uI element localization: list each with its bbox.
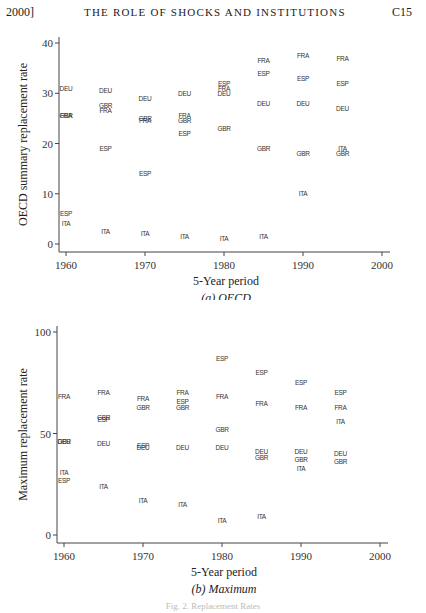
data-label-ita: ITA (139, 497, 149, 504)
data-label-fra: FRA (97, 389, 110, 396)
data-label-fra: FRA (295, 404, 308, 411)
data-label-deu: DEU (58, 438, 71, 445)
data-label-ita: ITA (297, 465, 307, 472)
data-label-deu: DEU (216, 444, 229, 451)
chart-maximum: 050100196019701980199020005-Year period(… (0, 0, 426, 613)
data-label-esp: ESP (216, 355, 228, 362)
x-tick-label: 1970 (132, 550, 155, 562)
data-label-ita: ITA (257, 513, 267, 520)
data-label-fra: FRA (334, 404, 347, 411)
data-label-gbr: GBR (136, 404, 150, 411)
chart-subtitle: (b) Maximum (192, 582, 257, 596)
data-label-gbr: GBR (176, 404, 190, 411)
data-label-deu: DEU (97, 440, 110, 447)
data-label-gbr: GBR (97, 414, 111, 421)
data-label-esp: ESP (334, 389, 346, 396)
data-label-fra: FRA (176, 389, 189, 396)
x-tick-label: 2000 (369, 550, 392, 562)
y-axis-title: Maximum replacement rate (16, 368, 30, 501)
x-tick-label: 1990 (290, 550, 313, 562)
data-label-gbr: GBR (215, 426, 229, 433)
data-label-ita: ITA (336, 418, 346, 425)
data-label-fra: FRA (216, 393, 229, 400)
data-label-deu: DEU (295, 448, 308, 455)
data-label-ita: ITA (99, 483, 109, 490)
x-axis-title: 5-Year period (191, 565, 257, 579)
data-label-deu: DEU (137, 444, 150, 451)
x-tick-label: 1960 (53, 550, 76, 562)
data-label-gbr: GBR (255, 454, 269, 461)
y-tick-label: 100 (35, 326, 52, 338)
data-label-ita: ITA (218, 517, 228, 524)
data-label-gbr: GBR (294, 456, 308, 463)
y-tick-label: 0 (46, 529, 52, 541)
data-label-deu: DEU (334, 450, 347, 457)
x-tick-label: 1980 (211, 550, 234, 562)
data-label-ita: ITA (60, 469, 70, 476)
data-label-gbr: GBR (334, 458, 348, 465)
data-label-deu: DEU (176, 444, 189, 451)
data-label-ita: ITA (178, 501, 188, 508)
data-label-fra: FRA (255, 400, 268, 407)
y-tick-label: 50 (40, 428, 52, 440)
figure-caption: Fig. 2. Replacement Rates (0, 601, 426, 611)
data-label-esp: ESP (295, 379, 307, 386)
data-label-deu: DEU (255, 448, 268, 455)
data-label-fra: FRA (58, 393, 71, 400)
data-label-esp: ESP (58, 477, 70, 484)
data-label-fra: FRA (137, 395, 150, 402)
maximum-points: FRAFRAFRAFRAFRAFRAFRAFRAESPESPESPESPESPE… (57, 355, 347, 524)
data-label-esp: ESP (255, 369, 267, 376)
